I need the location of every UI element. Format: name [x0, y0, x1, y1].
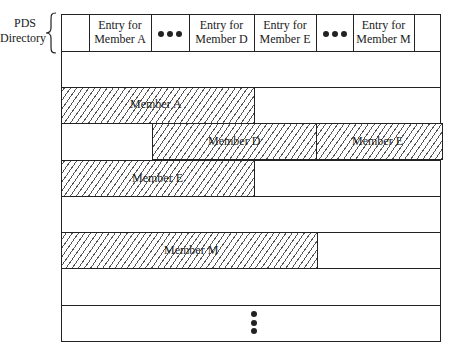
entry-line1: Entry for	[254, 18, 316, 32]
pds-directory-label: PDS Directory	[0, 16, 44, 46]
member-e-label-continued: Member E	[352, 134, 403, 149]
member-m-label: Member M	[164, 243, 218, 258]
pds-label-line2: Directory	[0, 31, 44, 46]
member-e-label: Member E	[132, 171, 183, 186]
entry-line1: Entry for	[189, 18, 254, 32]
member-d-label: Member D	[208, 134, 260, 149]
directory-entry-member-a: Entry for Member A	[89, 18, 151, 46]
directory-ellipsis	[151, 26, 189, 41]
vertical-ellipsis-icon	[250, 311, 258, 337]
curly-brace-icon	[44, 12, 58, 54]
directory-ellipsis	[316, 26, 353, 41]
dir-divider	[414, 14, 415, 51]
pds-label-line1: PDS	[0, 16, 44, 31]
directory-entry-member-d: Entry for Member D	[189, 18, 254, 46]
row-divider	[61, 305, 441, 306]
entry-line2: Member A	[89, 32, 151, 46]
directory-entry-member-m: Entry for Member M	[353, 18, 414, 46]
entry-line2: Member M	[353, 32, 414, 46]
entry-line2: Member E	[254, 32, 316, 46]
entry-line2: Member D	[189, 32, 254, 46]
entry-line1: Entry for	[89, 18, 151, 32]
directory-entry-member-e: Entry for Member E	[254, 18, 316, 46]
entry-line1: Entry for	[353, 18, 414, 32]
row-divider	[61, 51, 441, 52]
member-a-label: Member A	[130, 97, 182, 112]
